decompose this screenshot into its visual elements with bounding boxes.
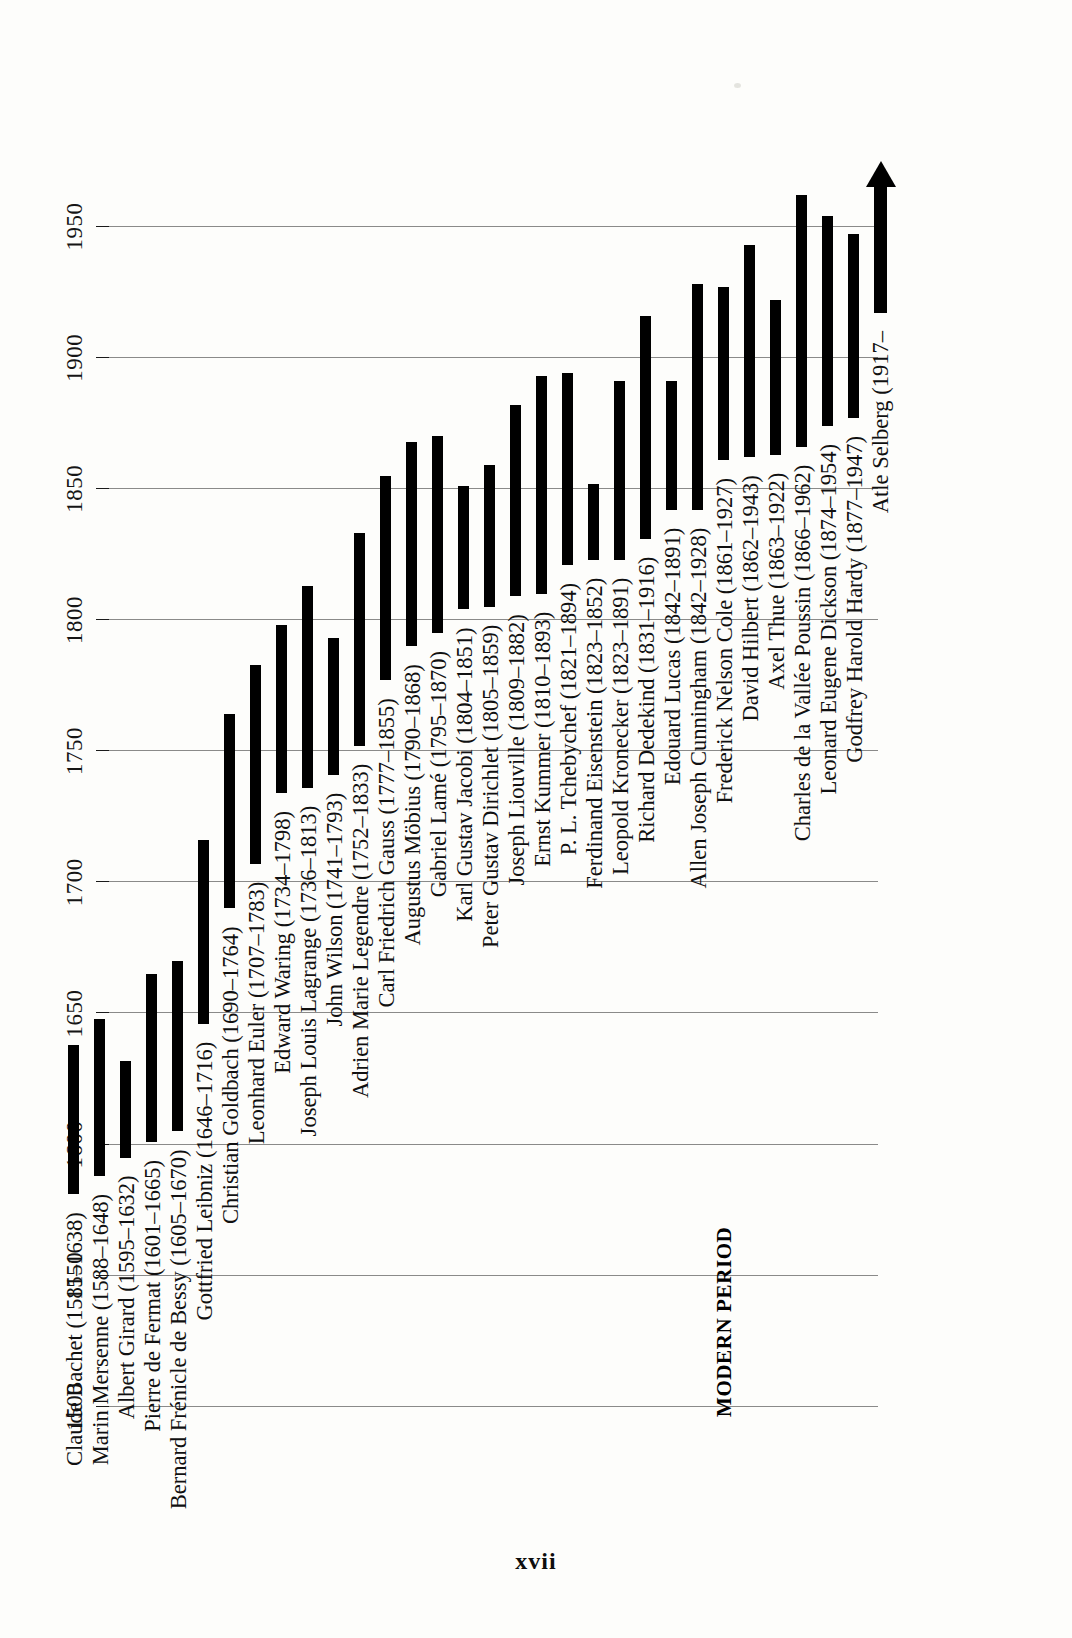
- lifespan-bar[interactable]: [484, 465, 495, 607]
- gridline-1500: [108, 1406, 878, 1407]
- lifespan-bar[interactable]: [692, 284, 703, 510]
- mathematician-label: Richard Dedekind (1831–1916): [634, 557, 660, 843]
- lifespan-bar[interactable]: [198, 840, 209, 1024]
- axis-tick-label: 1850: [62, 465, 88, 513]
- lifespan-bar[interactable]: [458, 486, 469, 609]
- mathematician-label: Edward Waring (1734–1798): [270, 811, 296, 1074]
- mathematician-label: Ernst Kummer (1810–1893): [530, 612, 556, 867]
- axis-tick-1650: [96, 1012, 109, 1013]
- axis-tick-1900: [96, 357, 109, 358]
- mathematician-label: Godfrey Harold Hardy (1877–1947): [842, 436, 868, 763]
- lifespan-bar[interactable]: [250, 665, 261, 864]
- lifespan-bar[interactable]: [276, 625, 287, 793]
- mathematician-label: Christian Goldbach (1690–1764): [218, 926, 244, 1223]
- gridline-1950: [108, 226, 878, 227]
- scan-speck: [734, 83, 741, 88]
- axis-tick-label: 1900: [62, 334, 88, 382]
- gridline-1550: [108, 1275, 878, 1276]
- lifespan-bar[interactable]: [848, 234, 859, 418]
- lifespan-bar[interactable]: [536, 376, 547, 594]
- lifespan-bar[interactable]: [302, 586, 313, 788]
- mathematician-label: David Hilbert (1862–1943): [738, 475, 764, 721]
- mathematician-label: Edouard Lucas (1842–1891): [660, 528, 686, 785]
- lifespan-bar[interactable]: [718, 287, 729, 460]
- mathematician-label: Gabriel Lamé (1795–1870): [426, 651, 452, 897]
- page-folio: xvii: [0, 1548, 1072, 1575]
- lifespan-bar[interactable]: [796, 195, 807, 447]
- axis-tick-1700: [96, 881, 109, 882]
- lifespan-bar[interactable]: [562, 373, 573, 564]
- lifespan-bar[interactable]: [666, 381, 677, 510]
- mathematician-label: Marin Mersenne (1588–1648): [88, 1194, 114, 1465]
- lifespan-bar[interactable]: [380, 476, 391, 681]
- axis-tick-label: 1650: [62, 989, 88, 1037]
- mathematician-label: Carl Friedrich Gauss (1777–1855): [374, 698, 400, 1007]
- mathematician-label: Ferdinand Eisenstein (1823–1852): [582, 578, 608, 889]
- axis-tick-1750: [96, 750, 109, 751]
- chart-plot-area: 1500155016001650170017501800185019001950…: [38, 135, 958, 1495]
- mathematician-label: Frederick Nelson Cole (1861–1927): [712, 478, 738, 804]
- mathematician-label: Joseph Liouville (1809–1882): [504, 614, 530, 885]
- lifespan-bar[interactable]: [146, 974, 157, 1142]
- axis-tick-label: 1700: [62, 858, 88, 906]
- axis-tick-1850: [96, 488, 109, 489]
- mathematician-label: Karl Gustav Jacobi (1804–1851): [452, 627, 478, 921]
- mathematician-label: Peter Gustav Dirichlet (1805–1859): [478, 625, 504, 948]
- mathematician-label: Leonard Eugene Dickson (1874–1954): [816, 444, 842, 795]
- axis-tick-1800: [96, 619, 109, 620]
- mathematician-label: Joseph Louis Lagrange (1736–1813): [296, 806, 322, 1137]
- lifespan-bar[interactable]: [432, 436, 443, 633]
- mathematician-label: John Wilson (1741–1793): [322, 793, 348, 1027]
- gridline-1900: [108, 357, 878, 358]
- mathematician-label: Charles de la Vallée Poussin (1866–1962): [790, 465, 816, 841]
- mathematician-label: Albert Girard (1595–1632): [114, 1176, 140, 1420]
- mathematician-label: Bernard Frénicle de Bessy (1605–1670): [166, 1149, 192, 1509]
- lifespan-bar[interactable]: [406, 442, 417, 647]
- axis-tick-1950: [96, 226, 109, 227]
- lifespan-bar[interactable]: [510, 405, 521, 596]
- mathematician-label: Leopold Kronecker (1823–1891): [608, 578, 634, 875]
- lifespan-bar[interactable]: [94, 1019, 105, 1176]
- lifespan-bar[interactable]: [822, 216, 833, 426]
- mathematician-label: Allen Joseph Cunningham (1842–1928): [686, 528, 712, 889]
- lifespan-bar[interactable]: [328, 638, 339, 774]
- lifespan-bar[interactable]: [172, 961, 183, 1131]
- lifespan-bar[interactable]: [224, 714, 235, 908]
- mathematician-label: Gottfried Leibniz (1646–1716): [192, 1042, 218, 1321]
- axis-tick-label: 1950: [62, 203, 88, 251]
- lifespan-bar[interactable]: [640, 316, 651, 539]
- lifespan-bar[interactable]: [614, 381, 625, 559]
- lifespan-bar[interactable]: [588, 484, 599, 560]
- mathematician-label: P. L. Tchebychef (1821–1894): [556, 583, 582, 855]
- mathematician-label: Claude Bachet (1581–1638): [62, 1212, 88, 1466]
- mathematician-label: Atle Selberg (1917–: [868, 331, 894, 513]
- mathematician-label: Axel Thue (1863–1922): [764, 473, 790, 690]
- lifespan-bar[interactable]: [770, 300, 781, 455]
- mathematician-label: Leonhard Euler (1707–1783): [244, 882, 270, 1144]
- axis-tick-label: 1800: [62, 596, 88, 644]
- lifespan-bar[interactable]: [354, 533, 365, 745]
- mathematician-label: Pierre de Fermat (1601–1665): [140, 1160, 166, 1432]
- lifespan-bar[interactable]: [744, 245, 755, 457]
- lifespan-bar[interactable]: [874, 185, 887, 313]
- mathematician-label: Adrien Marie Legendre (1752–1833): [348, 764, 374, 1098]
- mathematician-label: Augustus Möbius (1790–1868): [400, 664, 426, 945]
- lifespan-bar[interactable]: [120, 1061, 131, 1158]
- lifespan-bar[interactable]: [68, 1045, 79, 1194]
- era-label: MODERN PERIOD: [711, 1227, 736, 1417]
- axis-tick-label: 1750: [62, 727, 88, 775]
- timeline-chart: 1500155016001650170017501800185019001950…: [38, 135, 958, 1495]
- open-ended-arrow-icon: [866, 161, 896, 187]
